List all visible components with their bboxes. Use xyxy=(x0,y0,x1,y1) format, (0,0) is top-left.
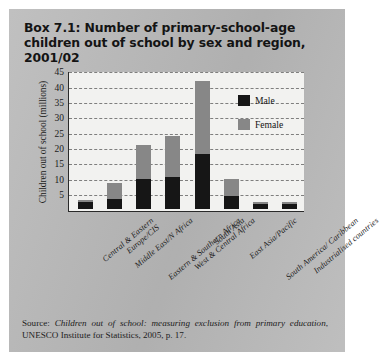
bar-segment-female xyxy=(195,81,210,155)
bar-segment-male xyxy=(165,177,180,209)
plot-canvas: Male Female xyxy=(68,72,304,212)
bar-column xyxy=(282,71,297,209)
bar-segment-male xyxy=(78,202,93,210)
page-title: Box 7.1: Number of primary-school-age ch… xyxy=(24,20,324,65)
bar-segment-male xyxy=(107,199,122,210)
y-axis-tick-label: 45 xyxy=(40,67,64,77)
bar-column xyxy=(78,71,93,209)
y-axis-tick-label: 40 xyxy=(40,83,64,93)
legend-swatch-female-icon xyxy=(238,119,250,130)
legend-label-male: Male xyxy=(255,95,275,106)
y-axis-tick-label: 30 xyxy=(40,113,64,123)
chart-plot-area: Male Female 45403530252015105 xyxy=(68,72,304,212)
bar-column xyxy=(165,71,180,209)
y-axis-tick-label: 25 xyxy=(40,129,64,139)
bar-segment-male xyxy=(282,204,297,210)
bar-segment-male xyxy=(195,154,210,209)
legend-swatch-male-icon xyxy=(238,95,250,106)
bar-segment-male xyxy=(224,196,239,210)
chart-legend: Male Female xyxy=(238,95,283,143)
y-axis-tick-label: 35 xyxy=(40,98,64,108)
source-note: Source: Children out of school: measurin… xyxy=(22,318,328,341)
source-prefix: Source: xyxy=(22,318,55,328)
bar-column xyxy=(136,71,151,209)
y-axis-tick-label: 10 xyxy=(40,175,64,185)
bar-segment-male xyxy=(136,179,151,210)
bar-segment-female xyxy=(165,136,180,177)
bar-segment-female xyxy=(136,145,151,179)
legend-item-male: Male xyxy=(238,95,283,106)
y-axis-tick-label: 5 xyxy=(40,190,64,200)
bar-segment-female xyxy=(107,183,122,198)
bar-column xyxy=(195,71,210,209)
legend-label-female: Female xyxy=(255,119,283,130)
y-axis-tick-label: 20 xyxy=(40,144,64,154)
legend-item-female: Female xyxy=(238,119,283,130)
y-axis-tick-label: 15 xyxy=(40,159,64,169)
bar-segment-male xyxy=(253,204,268,210)
bar-column xyxy=(107,71,122,209)
bar-segment-female xyxy=(224,179,239,196)
source-title: Children out of school: measuring exclus… xyxy=(55,318,326,328)
bar-column xyxy=(224,71,239,209)
